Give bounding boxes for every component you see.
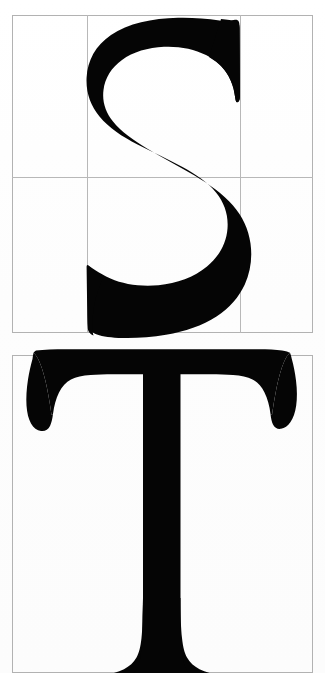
glyph-capital-s <box>0 0 325 348</box>
specimen-page <box>0 0 325 673</box>
specimen-panel-s <box>0 0 325 348</box>
glyph-capital-t <box>0 348 325 673</box>
specimen-panel-t <box>0 348 325 673</box>
